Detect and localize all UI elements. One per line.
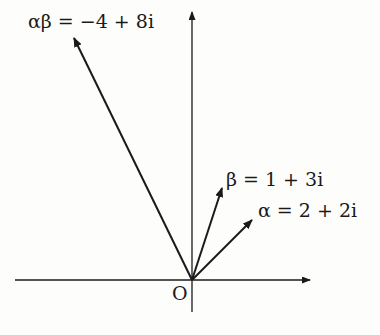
alpha-beta-label: αβ = −4 + 8i — [28, 12, 154, 31]
vector-alpha-beta — [74, 38, 192, 280]
origin-label: O — [172, 284, 188, 303]
argand-diagram — [0, 0, 380, 335]
beta-label: β = 1 + 3i — [226, 170, 323, 189]
alpha-label: α = 2 + 2i — [258, 201, 357, 220]
